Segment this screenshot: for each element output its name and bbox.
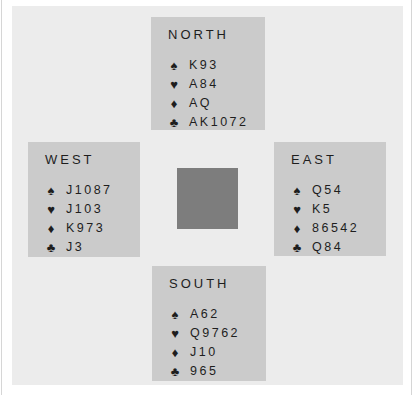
suit-cards: K973 [66, 219, 105, 238]
suit-row-diamonds: ♦ J10 [169, 343, 266, 362]
suit-cards: A84 [189, 75, 219, 94]
diamond-icon: ♦ [168, 94, 180, 113]
suit-cards: J103 [66, 200, 103, 219]
heart-icon: ♥ [169, 324, 181, 343]
frame-edge-left [1, 0, 2, 395]
suit-cards: AK1072 [189, 113, 248, 132]
suit-row-hearts: ♥ Q9762 [169, 324, 266, 343]
suit-cards: K5 [312, 200, 332, 219]
suit-cards: J10 [190, 343, 218, 362]
suit-row-clubs: ♣ Q84 [291, 238, 386, 257]
diamond-icon: ♦ [169, 343, 181, 362]
heart-icon: ♥ [291, 200, 303, 219]
suit-cards: Q54 [312, 181, 343, 200]
hand-south: SOUTH ♠ A62 ♥ Q9762 ♦ J10 ♣ 965 [152, 266, 266, 381]
club-icon: ♣ [45, 238, 57, 257]
suit-row-diamonds: ♦ K973 [45, 219, 140, 238]
table-center-square [177, 168, 238, 229]
hand-north: NORTH ♠ K93 ♥ A84 ♦ AQ ♣ AK1072 [151, 17, 265, 130]
spade-icon: ♠ [168, 56, 180, 75]
spade-icon: ♠ [169, 305, 181, 324]
suit-row-hearts: ♥ K5 [291, 200, 386, 219]
heart-icon: ♥ [45, 200, 57, 219]
suit-row-diamonds: ♦ 86542 [291, 219, 386, 238]
suit-cards: J3 [66, 238, 84, 257]
suit-cards: AQ [189, 94, 212, 113]
spade-icon: ♠ [45, 181, 57, 200]
suit-cards: Q84 [312, 238, 343, 257]
club-icon: ♣ [169, 362, 181, 381]
spade-icon: ♠ [291, 181, 303, 200]
hand-title-north: NORTH [168, 27, 265, 42]
suit-cards: K93 [189, 56, 219, 75]
hand-title-west: WEST [45, 152, 140, 167]
club-icon: ♣ [168, 113, 180, 132]
suit-row-spades: ♠ Q54 [291, 181, 386, 200]
suit-cards: 965 [190, 362, 218, 381]
suit-row-hearts: ♥ A84 [168, 75, 265, 94]
suit-cards: 86542 [312, 219, 359, 238]
club-icon: ♣ [291, 238, 303, 257]
suit-row-spades: ♠ K93 [168, 56, 265, 75]
suit-row-clubs: ♣ J3 [45, 238, 140, 257]
suit-cards: Q9762 [190, 324, 240, 343]
suit-row-hearts: ♥ J103 [45, 200, 140, 219]
diamond-icon: ♦ [45, 219, 57, 238]
suit-row-clubs: ♣ AK1072 [168, 113, 265, 132]
hand-east: EAST ♠ Q54 ♥ K5 ♦ 86542 ♣ Q84 [274, 142, 386, 256]
hand-west: WEST ♠ J1087 ♥ J103 ♦ K973 ♣ J3 [28, 142, 140, 257]
suit-row-diamonds: ♦ AQ [168, 94, 265, 113]
hand-title-east: EAST [291, 152, 386, 167]
suit-cards: J1087 [66, 181, 113, 200]
suit-row-clubs: ♣ 965 [169, 362, 266, 381]
diamond-icon: ♦ [291, 219, 303, 238]
heart-icon: ♥ [168, 75, 180, 94]
hand-title-south: SOUTH [169, 276, 266, 291]
frame-edge-right [411, 0, 412, 395]
suit-row-spades: ♠ A62 [169, 305, 266, 324]
suit-row-spades: ♠ J1087 [45, 181, 140, 200]
suit-cards: A62 [190, 305, 220, 324]
